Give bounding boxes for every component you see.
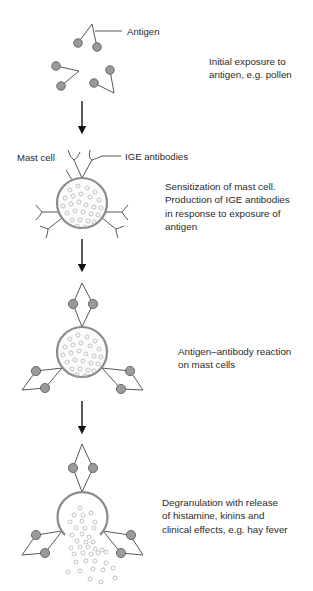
antigen-icon: [52, 39, 115, 91]
label-mast-cell: Mast cell: [17, 151, 55, 164]
mast-cell-degranulation: [22, 444, 143, 584]
label-antigen: Antigen: [127, 25, 160, 38]
step-description-3: Antigen–antibody reaction on mast cells: [178, 345, 291, 372]
step-description-1: Initial exposure to antigen, e.g. pollen: [209, 55, 292, 82]
label-ige-antibodies: IGE antibodies: [125, 150, 188, 163]
antigen-icon: [31, 463, 135, 557]
step-description-2: Sensitization of mast cell. Production o…: [165, 180, 290, 234]
mast-cell-reaction: [22, 283, 143, 394]
step-description-4: Degranulation with release of histamine,…: [162, 496, 288, 536]
antigen-group: [56, 24, 122, 93]
